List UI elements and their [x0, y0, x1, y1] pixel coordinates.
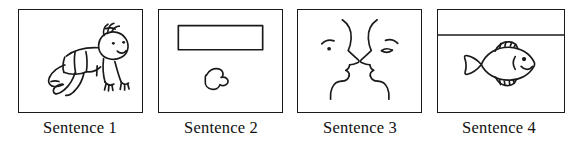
panel-caption-3: Sentence 3 — [280, 118, 440, 138]
panel-group-4: Sentence 4 — [419, 0, 579, 147]
panel-caption-4: Sentence 4 — [419, 118, 579, 138]
panel-frame-2[interactable] — [158, 9, 283, 113]
panel-caption-2: Sentence 2 — [141, 118, 301, 138]
panel-caption-1: Sentence 1 — [0, 118, 160, 138]
rectangle-and-blob-drawing — [159, 10, 282, 112]
panel-frame-1[interactable] — [18, 9, 143, 113]
panel-group-1: Sentence 1 — [0, 0, 160, 147]
panel-frame-4[interactable] — [437, 9, 565, 113]
panel-group-2: Sentence 2 — [141, 0, 301, 147]
panel-frame-3[interactable] — [297, 9, 422, 113]
panel-group-3: Sentence 3 — [280, 0, 440, 147]
two-facing-profiles-drawing — [298, 10, 421, 112]
fish-below-waterline-drawing — [438, 10, 564, 112]
crawling-baby-drawing — [19, 10, 142, 112]
sentence-picture-panels: Sentence 1 Sentence 2 — [0, 0, 579, 147]
